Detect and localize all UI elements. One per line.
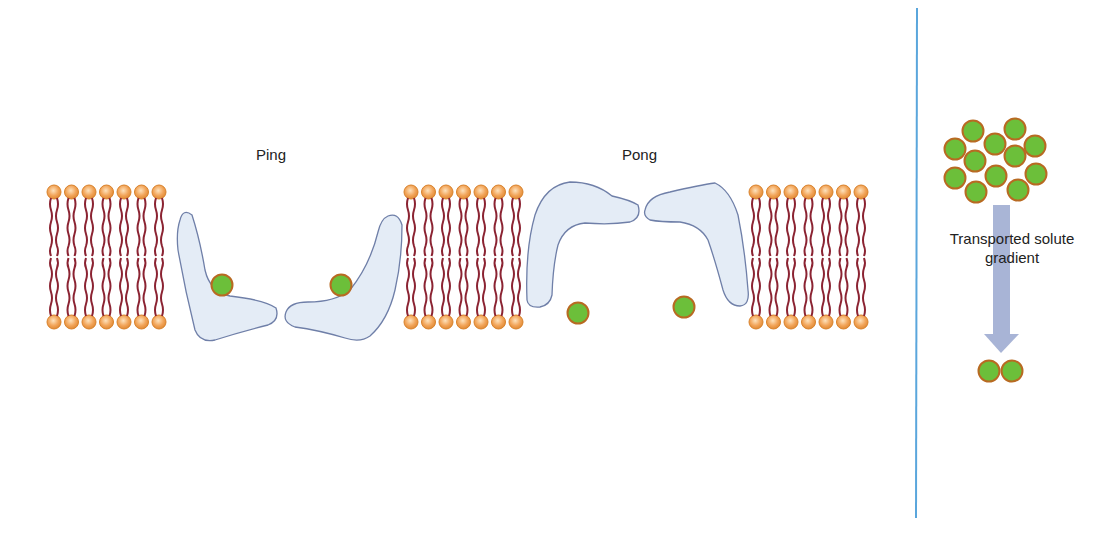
membrane-left <box>47 185 166 329</box>
pong-protein-left <box>527 182 639 307</box>
solute-ping-left <box>212 275 233 296</box>
gradient-label: Transported solute gradient <box>922 229 1102 267</box>
divider-line <box>916 8 917 518</box>
solute-cluster-low <box>979 361 1023 382</box>
gradient-label-line1: Transported solute <box>922 229 1102 248</box>
membrane-middle <box>404 185 523 329</box>
membrane-right <box>749 185 868 329</box>
solute-pong-right <box>674 297 695 318</box>
solute-ping-right <box>331 275 352 296</box>
gradient-arrow <box>984 205 1019 353</box>
gradient-label-line2: gradient <box>922 248 1102 267</box>
solute-cluster-high <box>945 119 1047 203</box>
pong-protein-right <box>645 183 749 306</box>
solute-pong-left <box>568 303 589 324</box>
